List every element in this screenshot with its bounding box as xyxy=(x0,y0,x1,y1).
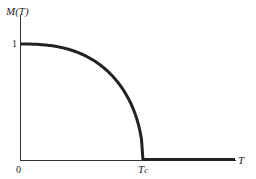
y-axis-label: M(T) xyxy=(6,6,29,17)
magnetization-curve xyxy=(20,44,143,160)
x-axis-label: T xyxy=(238,155,244,166)
tc-subscript: c xyxy=(144,166,148,175)
origin-label: 0 xyxy=(16,165,21,175)
y-tick-1: 1 xyxy=(12,39,17,49)
magnetization-chart: M(T) 1 0 T Tc xyxy=(0,0,256,179)
chart-canvas xyxy=(0,0,256,179)
tc-label: Tc xyxy=(138,164,148,175)
